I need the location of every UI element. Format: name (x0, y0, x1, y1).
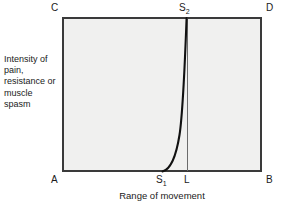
corner-label-a: A (51, 175, 58, 185)
y-axis-label: Intensity of pain, resistance or muscle … (4, 54, 60, 110)
corner-label-b: B (266, 175, 273, 185)
point-label-s2: S2 (179, 3, 190, 15)
plot-area (62, 17, 262, 172)
corner-label-d: D (266, 3, 273, 13)
point-label-s1: S1 (156, 175, 167, 187)
point-label-s2-sub: 2 (186, 8, 190, 15)
pain-resistance-figure: C D A B Intensity of pain, resistance or… (0, 0, 284, 209)
point-label-s1-sub: 1 (163, 180, 167, 187)
x-axis-label: Range of movement (62, 190, 262, 201)
point-label-s1-text: S (156, 174, 163, 185)
point-label-l: L (184, 175, 190, 185)
point-label-s2-text: S (179, 2, 186, 13)
corner-label-c: C (51, 3, 58, 13)
